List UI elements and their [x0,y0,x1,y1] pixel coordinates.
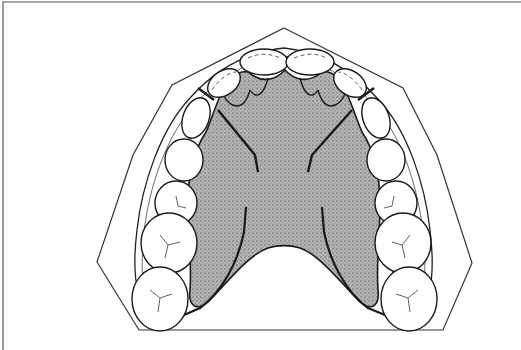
tooth-molar1-left [141,213,197,273]
tooth-central-incisor-left [240,49,288,75]
tooth-premolar1-right [367,139,405,181]
palate-appliance [188,70,380,307]
dental-cast-illustration [0,0,521,350]
tooth-premolar1-left [165,139,203,181]
tooth-central-incisor-right [286,49,334,75]
tooth-molar1-right [375,213,431,273]
tooth-molar2-right [381,267,437,331]
